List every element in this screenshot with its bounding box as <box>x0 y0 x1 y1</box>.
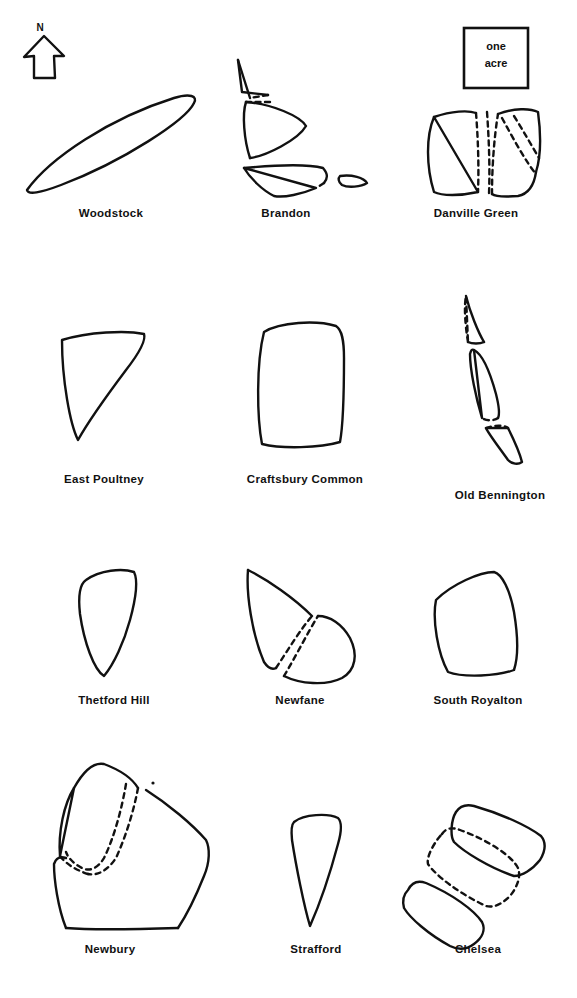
shape-newfane <box>238 558 373 693</box>
shape-east-poultney <box>48 318 163 453</box>
shape-south-royalton <box>414 562 534 687</box>
shape-strafford <box>272 800 362 935</box>
craftsbury-common-outline <box>240 310 370 460</box>
shape-newbury <box>28 752 233 937</box>
east-poultney-outline <box>48 318 163 453</box>
north-arrow-icon <box>18 24 70 84</box>
danville-green-outline <box>414 100 559 205</box>
newfane-outline <box>238 558 373 693</box>
label-chelsea: Chelsea <box>455 943 501 955</box>
label-east-poultney: East Poultney <box>64 473 144 485</box>
shape-chelsea <box>398 780 563 955</box>
shape-danville-green <box>414 100 559 205</box>
shape-old-bennington <box>452 288 547 468</box>
shape-brandon <box>228 52 378 202</box>
scale-key-line1: one <box>485 38 508 55</box>
strafford-outline <box>272 800 362 935</box>
label-woodstock: Woodstock <box>79 207 143 219</box>
label-brandon: Brandon <box>261 207 310 219</box>
newbury-outline <box>28 752 233 937</box>
label-danville-green: Danville Green <box>434 207 519 219</box>
thetford-hill-outline <box>60 558 165 693</box>
north-letter: N <box>36 22 43 33</box>
village-greens-figure: N one acre Woodstock <box>0 0 577 998</box>
south-royalton-outline <box>414 562 534 687</box>
chelsea-outline <box>398 780 563 955</box>
brandon-outline <box>228 52 378 202</box>
north-arrow <box>18 24 70 84</box>
old-bennington-outline <box>452 288 547 468</box>
woodstock-outline <box>14 82 204 197</box>
scale-key-line2: acre <box>485 55 508 72</box>
shape-woodstock <box>14 82 204 197</box>
label-old-bennington: Old Bennington <box>455 489 545 501</box>
label-craftsbury-common: Craftsbury Common <box>247 473 363 485</box>
label-newbury: Newbury <box>85 943 136 955</box>
label-thetford-hill: Thetford Hill <box>78 694 150 706</box>
shape-craftsbury-common <box>240 310 370 460</box>
label-strafford: Strafford <box>290 943 341 955</box>
shape-thetford-hill <box>60 558 165 693</box>
scale-key-label: one acre <box>485 38 508 72</box>
label-south-royalton: South Royalton <box>433 694 522 706</box>
label-newfane: Newfane <box>275 694 324 706</box>
